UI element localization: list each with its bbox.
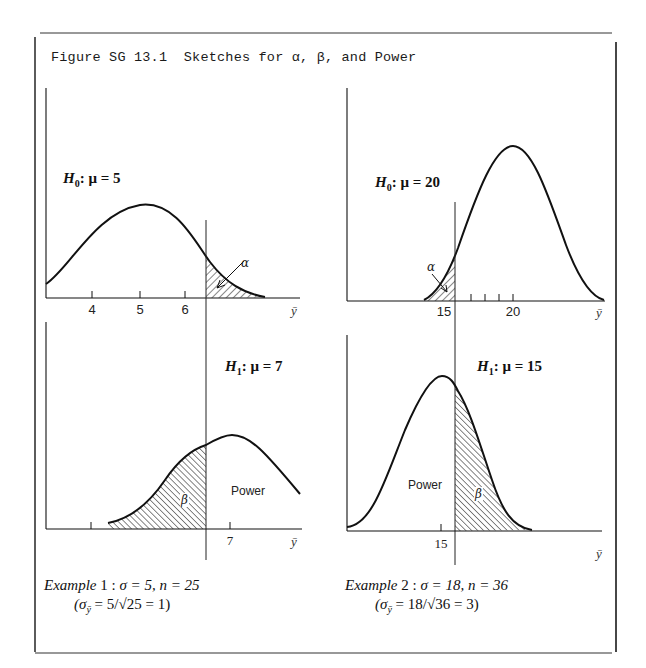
- hypothesis-label-h1-mu7: H1: μ = 7: [225, 358, 282, 377]
- tick-label-20: 20: [506, 304, 520, 319]
- beta-region: [108, 445, 206, 529]
- figure-drawing: [0, 0, 646, 668]
- h0-curve: [46, 205, 265, 297]
- beta-label: β: [180, 493, 189, 507]
- hypothesis-label-h1-mu15: H1: μ = 15: [477, 358, 542, 377]
- tick-label-15: 15: [435, 536, 448, 552]
- tick-label-5: 5: [136, 302, 143, 317]
- tick-label-7: 7: [227, 533, 234, 549]
- figure-caption: Figure SG 13.1 Sketches for α, β, and Po…: [51, 50, 416, 65]
- example-2-derivation: (σȳ = 18/√36 = 3): [375, 596, 508, 615]
- tick-label-15: 15: [437, 304, 451, 319]
- axis-variable-y-bar: ȳ: [291, 303, 297, 319]
- hypothesis-label-h0-mu20: H0: μ = 20: [375, 174, 440, 193]
- h1-curve: [347, 376, 532, 530]
- alpha-label: α: [241, 256, 249, 270]
- axis-variable-y-bar: ȳ: [596, 305, 602, 321]
- power-label: Power: [408, 478, 442, 492]
- axis-variable-y-bar: ȳ: [291, 534, 297, 550]
- alpha-label: α: [427, 260, 435, 274]
- example-1-derivation: (σȳ = 5/√25 = 1): [74, 596, 200, 615]
- axis-variable-y-bar: ȳ: [596, 546, 602, 562]
- panel-top-right: [347, 88, 605, 301]
- hypothesis-label-h0-mu5: H0: μ = 5: [63, 170, 120, 189]
- tick-label-4: 4: [88, 302, 95, 317]
- beta-label: β: [474, 487, 483, 501]
- example-1-caption: Example 1 : σ = 5, n = 25 (σȳ = 5/√25 = …: [44, 577, 200, 615]
- power-label: Power: [231, 484, 265, 498]
- tick-label-6: 6: [181, 302, 188, 317]
- panel-top-left: [46, 88, 300, 298]
- alpha-region: [206, 259, 262, 298]
- panel-bottom-right: [347, 335, 602, 531]
- example-2-caption: Example 2 : σ = 18, n = 36 (σȳ = 18/√36 …: [345, 577, 508, 615]
- figure-frame: [35, 33, 616, 653]
